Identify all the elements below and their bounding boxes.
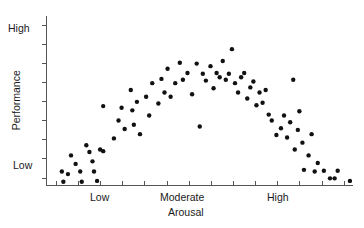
data-point	[296, 128, 300, 132]
data-point	[227, 72, 231, 76]
data-point	[95, 179, 99, 183]
y-axis-ticks	[42, 26, 47, 179]
x-tick-label-high: High	[267, 192, 289, 203]
data-point	[159, 77, 163, 81]
data-point	[66, 172, 70, 176]
y-tick-label-high: High	[8, 23, 30, 34]
data-point	[147, 113, 151, 117]
data-point	[332, 176, 336, 180]
data-point	[300, 140, 304, 144]
data-point	[297, 109, 301, 113]
data-point	[302, 168, 306, 172]
data-point	[101, 149, 105, 153]
data-point	[198, 124, 202, 128]
data-point	[130, 108, 134, 112]
data-point	[348, 179, 352, 183]
data-point	[122, 127, 126, 131]
data-point	[132, 123, 136, 127]
data-point	[73, 162, 77, 166]
data-point	[168, 95, 172, 99]
data-point	[328, 176, 332, 180]
data-point	[178, 61, 182, 65]
data-point	[214, 71, 218, 75]
data-point	[217, 75, 221, 79]
y-axis-title: Performance	[11, 60, 22, 140]
data-point	[316, 161, 320, 165]
data-point	[322, 169, 326, 173]
y-tick-label-low: Low	[13, 160, 32, 171]
data-point	[92, 169, 96, 173]
data-point	[335, 169, 339, 173]
data-point	[116, 118, 120, 122]
data-point	[291, 78, 295, 82]
data-point	[201, 72, 205, 76]
data-points-group	[60, 47, 353, 184]
data-point	[181, 78, 185, 82]
data-point	[230, 47, 234, 51]
data-point	[267, 112, 271, 116]
data-point	[236, 90, 240, 94]
data-point	[288, 120, 292, 124]
data-point	[263, 88, 267, 92]
data-point	[233, 81, 237, 85]
data-point	[119, 106, 123, 110]
data-point	[90, 159, 94, 163]
data-point	[306, 153, 310, 157]
data-point	[224, 78, 228, 82]
data-point	[112, 136, 116, 140]
data-point	[101, 104, 105, 108]
data-point	[80, 180, 84, 184]
data-point	[87, 150, 91, 154]
data-point	[162, 90, 166, 94]
data-point	[309, 132, 313, 136]
data-point	[84, 143, 88, 147]
data-point	[242, 71, 246, 75]
data-point	[254, 103, 258, 107]
data-point	[204, 78, 208, 82]
data-point	[260, 101, 264, 105]
scatter-plot-figure: High Low Low Moderate High Arousal Perfo…	[0, 0, 364, 228]
data-point	[293, 147, 297, 151]
data-point	[156, 101, 160, 105]
data-point	[138, 132, 142, 136]
data-point	[257, 90, 261, 94]
data-point	[69, 153, 73, 157]
data-point	[165, 67, 169, 71]
x-tick-label-low: Low	[90, 192, 109, 203]
data-point	[150, 81, 154, 85]
data-point	[239, 75, 243, 79]
data-point	[194, 61, 198, 65]
data-point	[190, 92, 194, 96]
data-point	[129, 88, 133, 92]
data-point	[312, 169, 316, 173]
data-point	[279, 126, 283, 130]
data-point	[248, 85, 252, 89]
data-point	[270, 118, 274, 122]
data-point	[208, 64, 212, 68]
data-point	[78, 169, 82, 173]
x-tick-label-moderate: Moderate	[160, 192, 204, 203]
data-point	[185, 71, 189, 75]
data-point	[285, 135, 289, 139]
data-point	[245, 96, 249, 100]
data-point	[221, 59, 225, 63]
data-point	[173, 81, 177, 85]
data-point	[251, 79, 255, 83]
data-point	[274, 133, 278, 137]
x-axis-title: Arousal	[168, 207, 204, 218]
data-point	[211, 86, 215, 90]
data-point	[135, 100, 139, 104]
data-point	[61, 180, 65, 184]
data-point	[144, 95, 148, 99]
data-point	[282, 113, 286, 117]
data-point	[60, 169, 64, 173]
